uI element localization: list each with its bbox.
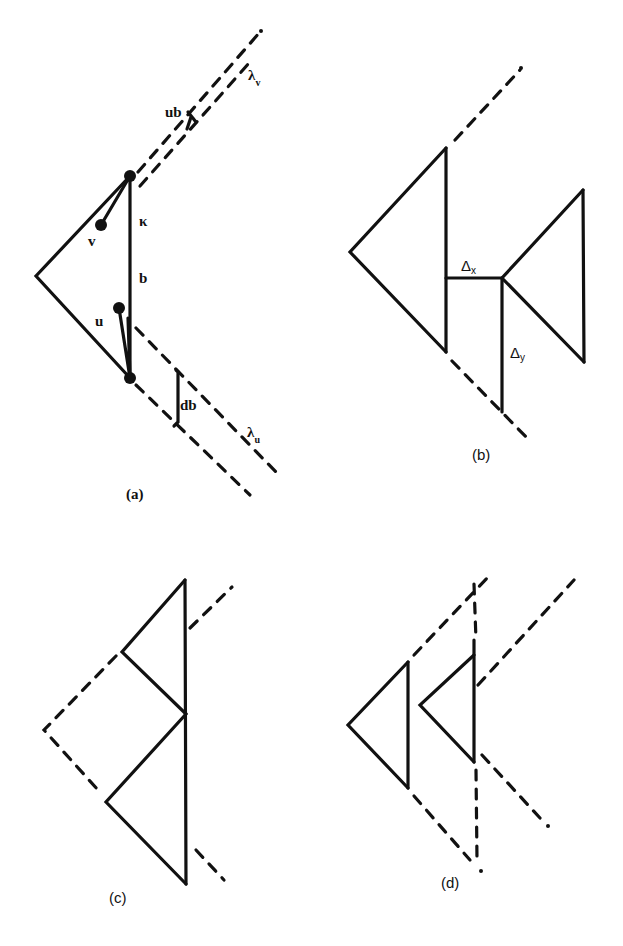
panel-a: ub λv v κ b u db λu (a): [36, 29, 276, 503]
label-ub: ub: [165, 104, 182, 120]
dashed-up-right-d: [478, 580, 574, 685]
label-b: b: [139, 270, 147, 286]
dashed-cone-c: [44, 656, 116, 790]
triangle-right-vertical-b: [583, 190, 584, 362]
light-cone-a: [36, 176, 130, 378]
triangle-upper-c: [122, 580, 186, 714]
dashed-upper-2: [140, 62, 250, 186]
endpoint-top: [124, 170, 136, 182]
dashed-up-left-d: [414, 575, 490, 655]
label-kappa: κ: [139, 213, 148, 229]
caption-a: (a): [126, 486, 144, 503]
dashed-down-right-d: [482, 755, 540, 818]
dashed-upper-1: [138, 32, 260, 172]
triangle-right-d: [420, 655, 474, 762]
panel-c: (c): [44, 580, 232, 906]
dashed-down-b: [452, 361, 531, 442]
dashed-down-c: [196, 850, 224, 880]
dashed-down-left-d: [414, 796, 470, 860]
triangle-right-b: [502, 190, 584, 362]
caption-b: (b): [472, 446, 490, 463]
dashed-vertical-lower-d: [476, 770, 477, 860]
dashed-end-dot-b: [519, 66, 523, 70]
panel-d: (d): [348, 575, 574, 891]
endpoint-v: [95, 219, 107, 231]
dashed-up-b: [455, 70, 520, 140]
label-v: v: [88, 233, 96, 249]
label-delta-x: Δx: [461, 257, 476, 276]
endpoint-bottom: [124, 372, 136, 384]
triangle-lower-c: [106, 714, 186, 884]
dashed-up-c: [190, 587, 232, 628]
endpoint-u: [113, 302, 125, 314]
label-lambda-u: λu: [247, 424, 260, 445]
label-db: db: [180, 397, 197, 413]
caption-d: (d): [441, 874, 459, 891]
dashed-end-dot-d: [479, 869, 483, 873]
vertical-c: [185, 580, 186, 884]
triangle-left-b: [350, 148, 446, 352]
db-bracket: [174, 370, 178, 426]
dashed-end-dot: [259, 29, 263, 33]
triangle-left-d: [348, 662, 408, 788]
label-delta-y: Δy: [510, 344, 525, 363]
figure-canvas: ub λv v κ b u db λu (a) Δx Δy (b): [0, 0, 623, 946]
panel-b: Δx Δy (b): [350, 66, 584, 463]
label-u: u: [95, 313, 103, 329]
dashed-end-dot-d2: [546, 824, 550, 828]
label-lambda-v: λv: [248, 67, 260, 88]
caption-c: (c): [109, 889, 127, 906]
